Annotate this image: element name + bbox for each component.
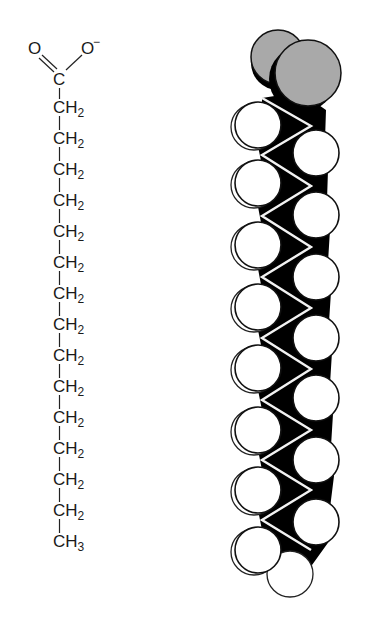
hydrogen-atom	[231, 160, 281, 208]
methylene-group-label: CH2	[53, 346, 85, 368]
single-bond-line	[66, 55, 82, 70]
methyl-group-label: CH3	[53, 532, 85, 554]
hydrogen-atom	[293, 254, 339, 300]
methylene-group-label: CH2	[53, 315, 85, 337]
methylene-group-label: CH2	[53, 253, 85, 275]
hydrogen-atom	[231, 407, 281, 455]
methylene-group-label: CH2	[53, 98, 85, 120]
methylene-group-label: CH2	[53, 501, 85, 523]
oxygen-atom	[275, 40, 341, 106]
palmitate-figure: O O − C CH2CH2CH2CH2CH2CH2CH2CH2CH2CH2CH…	[0, 0, 370, 625]
carboxyl-carbon-label: C	[53, 70, 65, 89]
hydrogen-atom	[231, 222, 281, 270]
negative-charge-label: −	[93, 35, 100, 49]
oxygen-double-bond-label: O	[28, 39, 41, 58]
hydrogen-atom	[293, 437, 339, 483]
methylene-group-label: CH2	[53, 377, 85, 399]
hydrogen-atom	[231, 527, 281, 575]
double-bond-line-1	[39, 58, 54, 72]
hydrogen-atom	[231, 284, 281, 332]
methylene-group-label: CH2	[53, 284, 85, 306]
methylene-group-label: CH2	[53, 439, 85, 461]
methylene-group-label: CH2	[53, 408, 85, 430]
methylene-group-label: CH2	[53, 160, 85, 182]
methylene-group-label: CH2	[53, 129, 85, 151]
space-filling-model	[231, 30, 341, 597]
hydrogen-atom	[231, 467, 281, 515]
double-bond-line-2	[42, 55, 57, 69]
hydrogen-atom	[231, 345, 281, 393]
hydrogen-atom	[293, 499, 339, 545]
hydrogen-atom	[293, 130, 339, 176]
methylene-group-label: CH2	[53, 191, 85, 213]
methylene-chain: CH2CH2CH2CH2CH2CH2CH2CH2CH2CH2CH2CH2CH2C…	[53, 88, 85, 554]
hydrogen-atom	[293, 375, 339, 421]
hydrogen-atom	[293, 192, 339, 238]
hydrogen-atom	[293, 315, 339, 361]
methylene-group-label: CH2	[53, 222, 85, 244]
hydrogen-atom	[231, 102, 281, 150]
structural-formula: O O − C CH2CH2CH2CH2CH2CH2CH2CH2CH2CH2CH…	[28, 35, 100, 554]
methylene-group-label: CH2	[53, 470, 85, 492]
